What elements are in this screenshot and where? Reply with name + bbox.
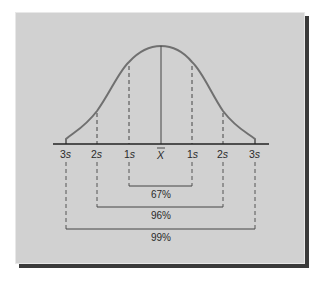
normal-curve-diagram: 3s 2s 1s X 1s 2s 3s 67% 96% 99%	[0, 0, 325, 281]
svg-text:3s: 3s	[60, 148, 72, 160]
svg-text:1s: 1s	[187, 148, 199, 160]
svg-text:3s: 3s	[249, 148, 261, 160]
mean-label: X	[156, 149, 165, 161]
svg-text:2s: 2s	[91, 148, 103, 160]
range-label-1sd: 67%	[151, 189, 171, 200]
range-label-3sd: 99%	[151, 232, 171, 243]
svg-text:2s: 2s	[217, 148, 229, 160]
svg-text:1s: 1s	[124, 148, 136, 160]
range-label-2sd: 96%	[151, 210, 171, 221]
axis-labels: 3s 2s 1s X 1s 2s 3s	[60, 148, 261, 161]
